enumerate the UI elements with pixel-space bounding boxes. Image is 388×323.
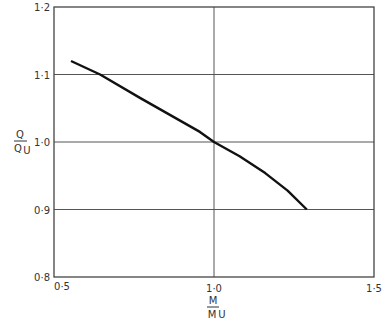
y-label-denominator: Q [14, 143, 22, 154]
y-tick-label: 1·0 [34, 137, 50, 148]
chart: 0·80·91·01·11·2 0·51·01·5 Q Q U M M U [0, 0, 388, 323]
y-label-numerator: Q [16, 129, 24, 140]
y-tick-label: 0·9 [34, 205, 50, 216]
x-axis-ticks: 0·51·01·5 [54, 281, 382, 294]
x-tick-label: 1·0 [206, 283, 222, 294]
x-tick-label: 1·5 [366, 283, 382, 294]
x-tick-label: 0·5 [54, 281, 70, 292]
x-axis-label: M M U [207, 295, 226, 320]
y-tick-label: 0·8 [34, 272, 50, 283]
series-line [71, 61, 307, 210]
x-label-denominator: M [208, 309, 217, 320]
y-label-denominator-sub: U [23, 145, 30, 156]
data-series [71, 61, 307, 210]
y-axis-ticks: 0·80·91·01·11·2 [34, 2, 50, 283]
x-label-numerator: M [209, 295, 218, 306]
x-label-denominator-sub: U [218, 309, 225, 320]
y-tick-label: 1·1 [34, 70, 50, 81]
y-tick-label: 1·2 [34, 2, 50, 13]
y-axis-label: Q Q U [14, 129, 31, 156]
